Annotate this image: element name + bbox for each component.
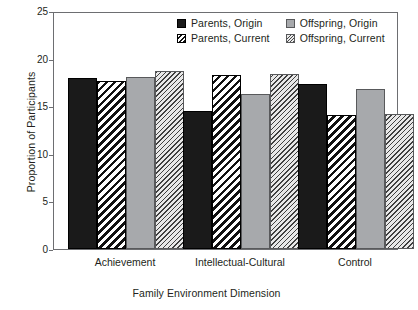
legend-label: Parents, Current — [191, 32, 270, 44]
bar-achievement-parents-origin — [68, 78, 97, 249]
bar-control-offspring-current — [385, 114, 414, 249]
bar-control-parents-current — [327, 115, 356, 249]
y-axis-title: Proportion of Participants — [25, 17, 37, 247]
bar-control-offspring-origin — [356, 89, 385, 249]
y-tick-label: 10 — [0, 150, 48, 160]
y-tick-label: 15 — [0, 102, 48, 112]
legend-label: Offspring, Origin — [300, 17, 378, 29]
legend-entry-offspring-current: Offspring, Current — [286, 32, 385, 44]
bar-control-parents-origin — [298, 84, 327, 249]
plot-area — [53, 12, 398, 250]
bar-intellectual-cultural-offspring-origin — [241, 94, 270, 249]
bar-achievement-parents-current — [97, 81, 126, 249]
legend-label: Parents, Origin — [191, 17, 263, 29]
y-tick-mark — [49, 250, 53, 251]
legend-swatch-icon — [177, 19, 186, 28]
legend-swatch-icon — [286, 19, 295, 28]
legend-swatch-icon — [177, 34, 186, 43]
y-tick-label: 25 — [0, 7, 48, 17]
x-category-label: Control — [265, 256, 418, 268]
y-tick-label: 0 — [0, 245, 48, 255]
legend-label: Offspring, Current — [300, 32, 385, 44]
x-axis-title: Family Environment Dimension — [0, 287, 413, 299]
legend-swatch-icon — [286, 34, 295, 43]
chart-legend: Parents, OriginOffspring, OriginParents,… — [177, 17, 385, 44]
bar-achievement-offspring-origin — [126, 77, 155, 249]
legend-entry-offspring-origin: Offspring, Origin — [286, 17, 385, 29]
legend-entry-parents-origin: Parents, Origin — [177, 17, 270, 29]
legend-entry-parents-current: Parents, Current — [177, 32, 270, 44]
y-tick-label: 20 — [0, 55, 48, 65]
y-tick-label: 5 — [0, 197, 48, 207]
bar-achievement-offspring-current — [155, 71, 184, 249]
bar-intellectual-cultural-parents-origin — [183, 111, 212, 249]
bar-intellectual-cultural-offspring-current — [270, 74, 299, 249]
bar-intellectual-cultural-parents-current — [212, 75, 241, 249]
